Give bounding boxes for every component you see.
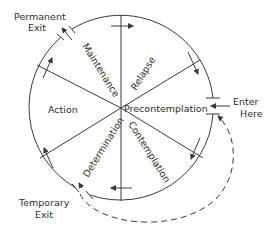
permanent-exit-label-line1: Permanent xyxy=(14,11,66,22)
permanent-exit-label-line2: Exit xyxy=(28,22,46,33)
temporary-exit-label-line1: Temporary xyxy=(18,197,70,208)
enter-label-line1: Enter xyxy=(233,96,259,107)
enter-label-line2: Here xyxy=(240,108,263,119)
stage-label-contemplation: Contemplation xyxy=(126,119,172,184)
stages-of-change-diagram: Precontemplation Contemplation Determina… xyxy=(0,0,279,238)
stage-label-determination: Determination xyxy=(80,115,126,179)
permanent-exit-arrow-icon xyxy=(62,28,72,40)
stage-label-relapse: Relapse xyxy=(128,54,157,92)
arrow-icon xyxy=(43,58,52,78)
temporary-exit-label-line2: Exit xyxy=(35,209,53,220)
stage-label-action: Action xyxy=(48,104,78,115)
temporary-exit-arrow-icon xyxy=(79,183,82,188)
stage-label-precontemplation: Precontemplation xyxy=(124,103,208,114)
